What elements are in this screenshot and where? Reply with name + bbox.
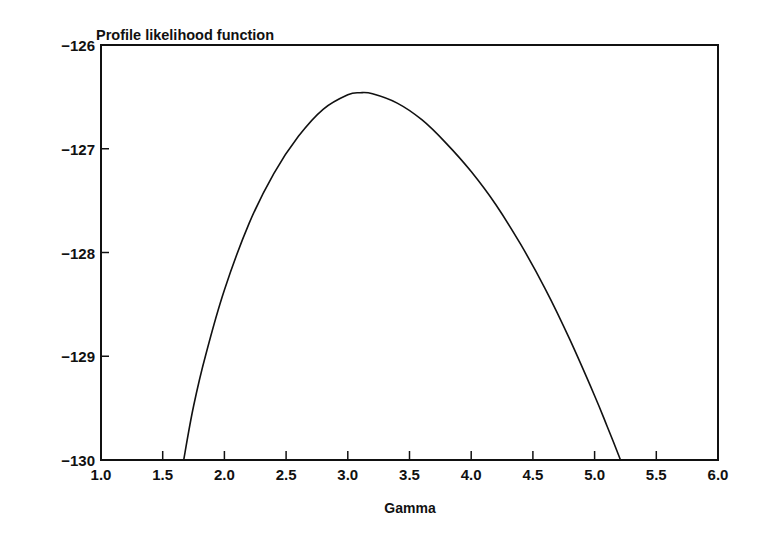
y-tick-label: −129 bbox=[61, 348, 95, 365]
likelihood-curve bbox=[184, 93, 621, 460]
x-tick-label: 5.5 bbox=[646, 466, 667, 483]
x-tick-label: 4.5 bbox=[522, 466, 543, 483]
plot-frame bbox=[101, 45, 718, 460]
x-tick-label: 1.0 bbox=[91, 466, 112, 483]
x-tick-label: 4.0 bbox=[461, 466, 482, 483]
x-tick-label: 5.0 bbox=[584, 466, 605, 483]
x-tick-label: 6.0 bbox=[708, 466, 729, 483]
x-tick-label: 3.5 bbox=[399, 466, 420, 483]
y-tick-label: −126 bbox=[61, 37, 95, 54]
x-tick-label: 3.0 bbox=[337, 466, 358, 483]
x-tick-label: 1.5 bbox=[152, 466, 173, 483]
profile-likelihood-chart: Profile likelihood function −126−127−128… bbox=[0, 0, 764, 545]
x-axis: 1.01.52.02.53.03.54.04.55.05.56.0 bbox=[91, 451, 729, 483]
x-tick-label: 2.5 bbox=[276, 466, 297, 483]
x-tick-label: 2.0 bbox=[214, 466, 235, 483]
chart-title: Profile likelihood function bbox=[96, 27, 274, 43]
y-tick-label: −128 bbox=[61, 245, 95, 262]
x-axis-title: Gamma bbox=[384, 500, 436, 516]
y-tick-label: −127 bbox=[61, 141, 95, 158]
